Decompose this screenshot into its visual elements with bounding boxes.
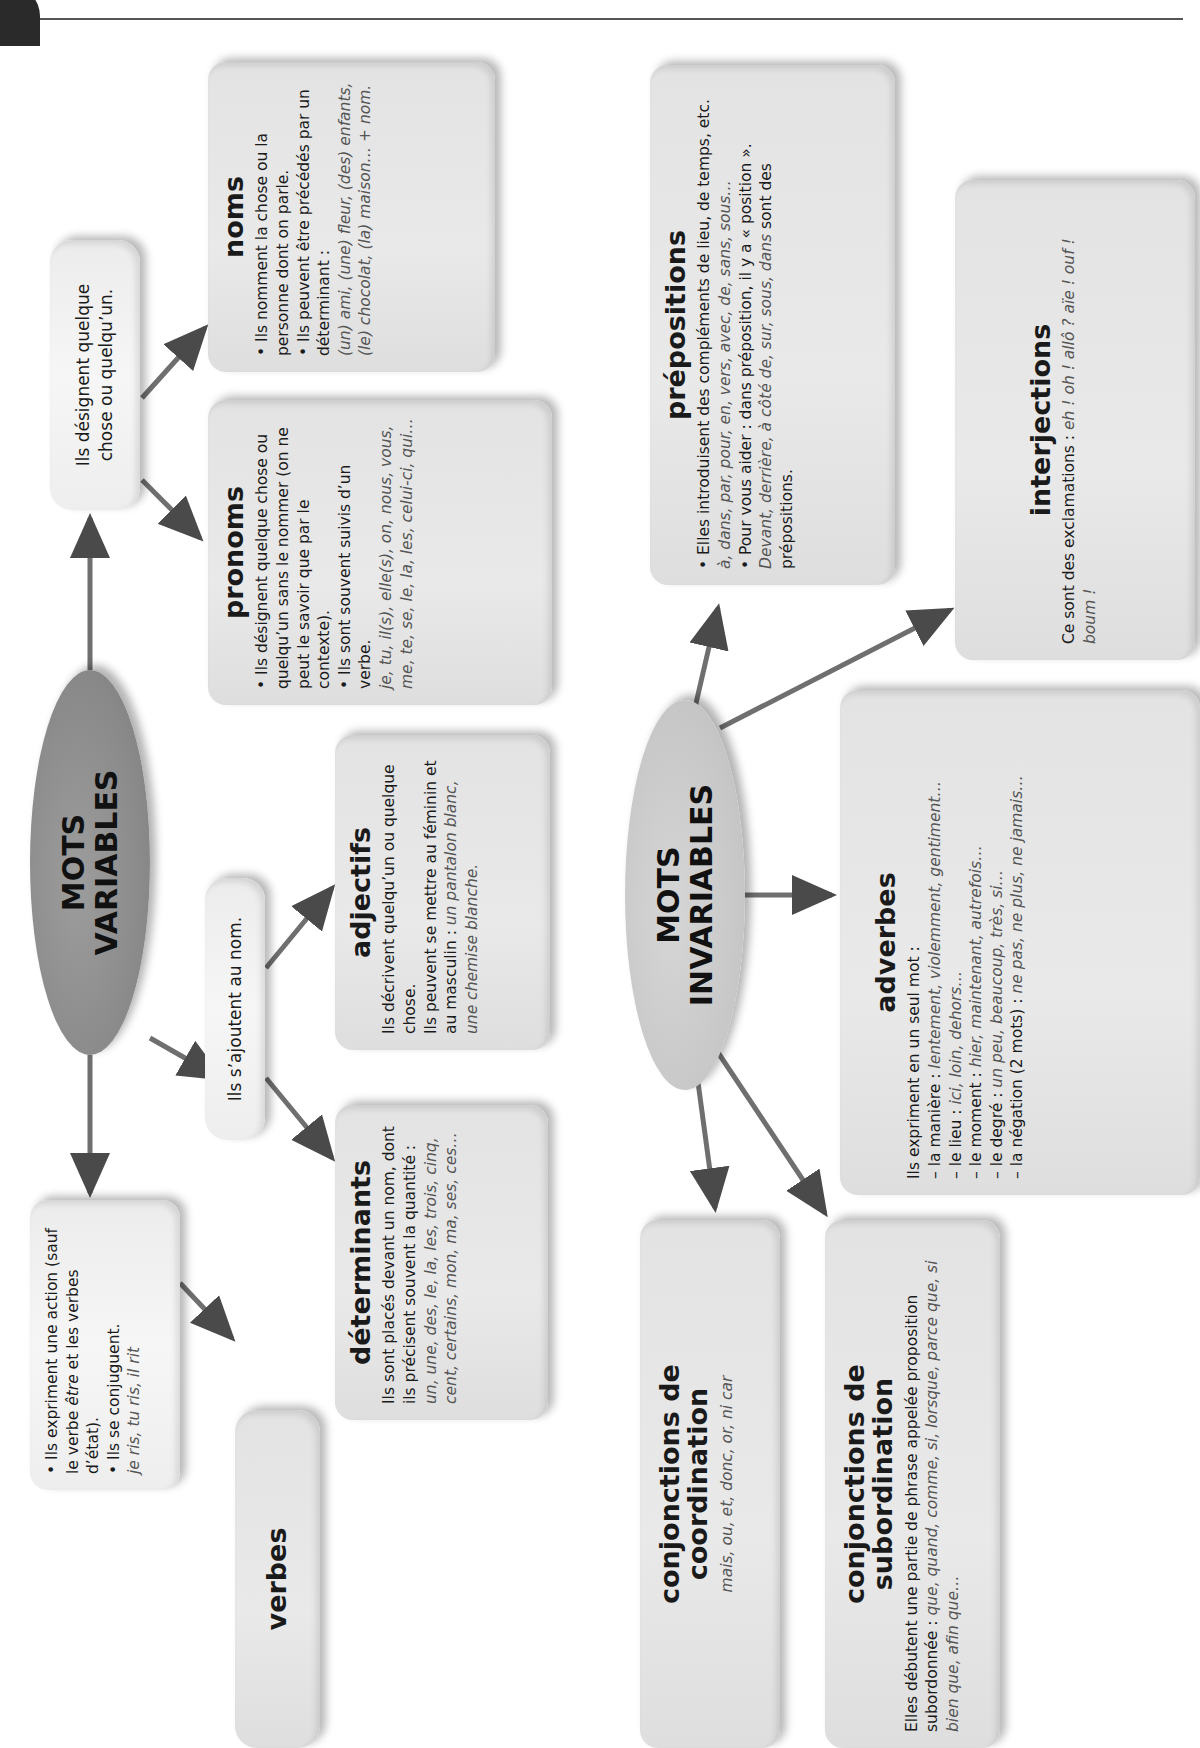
prepositions-title: prépositions — [662, 81, 690, 569]
adverbes-item-examples: un peu, beaucoup, très, si… — [988, 870, 1006, 1088]
card-coordination: conjonctions de coordination mais, ou, e… — [640, 1220, 780, 1748]
pronoms-title: pronoms — [220, 416, 248, 689]
prepositions-examples-1: à, dans, par, pour, en, vers, avec, de, … — [715, 81, 736, 569]
arrow-to-determinants — [266, 1078, 332, 1158]
noms-title: noms — [220, 78, 248, 356]
prepositions-examples-2: Devant, derrière, à côté de, sur, sous, … — [757, 234, 775, 569]
card-determinants: déterminants Ils sont placés devant un n… — [335, 1105, 548, 1420]
interjections-text: Ce sont des exclamations : — [1060, 430, 1078, 644]
adverbes-item-examples: lentement, violemment, gentiment… — [926, 781, 944, 1069]
pronoms-bullet-1: Ils désignent quelque chose ou quelqu’un… — [252, 416, 334, 689]
adverbes-item-examples: ne pas, ne plus, ne jamais… — [1008, 775, 1026, 993]
card-adverbes: adverbes Ils expriment en un seul mot : … — [840, 690, 1200, 1195]
arrow-to-verbes — [180, 1283, 232, 1338]
adjectifs-text-1: Ils décrivent quelqu’un ou quelque chose… — [379, 751, 420, 1034]
determinants-text: Ils sont placés devant un nom, dont ils … — [380, 1126, 419, 1404]
adverbes-item-examples: hier, maintenant, autrefois… — [967, 845, 985, 1067]
hub-mots-invariables: MOTS INVARIABLES — [625, 700, 745, 1090]
hub-mots-variables: MOTS VARIABLES — [30, 670, 150, 1055]
arrow-to-adjectifs — [266, 888, 332, 968]
hub-variables-line1: MOTS — [57, 770, 90, 956]
adverbes-item: – le moment : hier, maintenant, autrefoi… — [966, 706, 987, 1179]
noms-bullet-2: Ils peuvent être précédés par un détermi… — [294, 78, 335, 356]
coordination-title: conjonctions de coordination — [656, 1236, 713, 1732]
arrow-to-subordination — [715, 1048, 825, 1213]
interjections-title: interjections — [1027, 196, 1055, 644]
adverbes-item: – la négation (2 mots) : ne pas, ne plus… — [1007, 706, 1028, 1179]
hub-variables-line2: VARIABLES — [90, 770, 123, 956]
adverbes-item-label: – le degré : — [988, 1088, 1006, 1179]
coordination-title-1: conjonctions de — [654, 1364, 685, 1604]
hub-invariables-line2: INVARIABLES — [685, 784, 718, 1006]
coordination-examples: mais, ou, et, donc, or, ni car — [717, 1236, 738, 1732]
coordination-title-2: coordination — [682, 1388, 713, 1580]
adverbes-item-label: – la manière : — [926, 1069, 944, 1179]
card-verbes-info: Ils expriment une action (sauf le verbe … — [30, 1200, 180, 1490]
card-pronoms: pronoms Ils désignent quelque chose ou q… — [208, 400, 552, 705]
arrow-to-pronoms — [142, 480, 200, 538]
verbes-bullet-1-em: être — [64, 1374, 82, 1406]
noms-bullet-1: Ils nomment la chose ou la personne dont… — [252, 78, 293, 356]
adjectifs-title: adjectifs — [347, 751, 375, 1034]
pronoms-examples: je, tu, il(s), elle(s), on, nous, vous, … — [376, 416, 417, 689]
prepositions-bullet-2: Pour vous aider : dans préposition, il y… — [736, 81, 757, 569]
subordination-title-2: subordination — [867, 1378, 898, 1590]
verbes-bullet-2: Ils se conjuguent. — [104, 1216, 125, 1474]
adverbes-item: – le lieu : ici, loin, dehors… — [946, 706, 967, 1179]
subordination-title: conjonctions de subordination — [841, 1236, 898, 1732]
subordination-title-1: conjonctions de — [839, 1364, 870, 1604]
adverbes-item: – le degré : un peu, beaucoup, très, si… — [987, 706, 1008, 1179]
adverbes-item: – la manière : lentement, violemment, ge… — [925, 706, 946, 1179]
verbes-title: verbes — [263, 1528, 291, 1631]
card-adjectifs: adjectifs Ils décrivent quelqu’un ou que… — [335, 735, 550, 1050]
determinants-examples: un, une, des, le, la, les, trois, cinq, … — [422, 1132, 461, 1404]
hub-invariables-line1: MOTS — [652, 784, 685, 1006]
pronoms-bullet-2: Ils sont souvent suivis d’un verbe. — [335, 416, 376, 689]
arrow-to-noms — [142, 328, 205, 398]
card-verbes: verbes — [235, 1410, 320, 1748]
card-prepositions: prépositions Elles introduisent des comp… — [650, 65, 895, 585]
ajoutent-text: Ils s’ajoutent au nom. — [224, 917, 247, 1101]
prepositions-bullet-1: Elles introduisent des compléments de li… — [694, 81, 715, 569]
node-ajoutent: Ils s’ajoutent au nom. — [205, 878, 265, 1140]
adverbes-title: adverbes — [872, 706, 900, 1179]
adverbes-item-label: – le moment : — [967, 1067, 985, 1179]
card-subordination: conjonctions de subordination Elles débu… — [825, 1220, 1000, 1748]
verbes-examples: je ris, tu ris, il rit — [124, 1216, 145, 1474]
noms-examples: (un) ami, (une) fleur, (des) enfants, (l… — [335, 78, 376, 356]
adverbes-intro: Ils expriment en un seul mot : — [904, 706, 925, 1179]
node-designent: Ils désignent quelque chose ou quelqu’un… — [50, 240, 140, 510]
card-noms: noms Ils nomment la chose ou la personne… — [208, 62, 495, 372]
determinants-title: déterminants — [347, 1121, 375, 1404]
card-interjections: interjections Ce sont des exclamations :… — [955, 180, 1195, 660]
adverbes-item-label: – le lieu : — [947, 1105, 965, 1180]
designent-text: Ils désignent quelque chose ou quelqu’un… — [72, 258, 117, 492]
adverbes-item-examples: ici, loin, dehors… — [947, 971, 965, 1104]
adverbes-item-label: – la négation (2 mots) : — [1008, 994, 1026, 1179]
